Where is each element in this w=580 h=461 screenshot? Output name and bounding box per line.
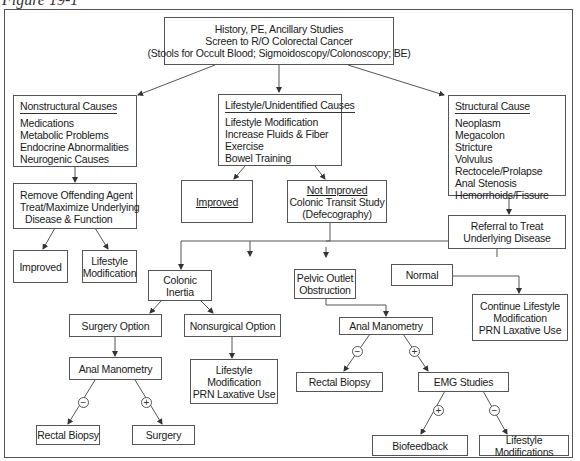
continue-line-3: PRN Laxative Use [479, 324, 562, 336]
normal-label: Normal [406, 269, 439, 281]
node-referral-treat-underlying: Referral to Treat Underlying Disease [448, 215, 566, 249]
node-root-history: History, PE, Ancillary Studies Screen to… [164, 17, 394, 65]
plus-sign-icon: + [433, 405, 444, 416]
node-continue-lifestyle: Continue Lifestyle Modification PRN Laxa… [472, 294, 568, 341]
node-improved-left: Improved [13, 250, 68, 283]
node-anal-manometry-left: Anal Manometry [69, 357, 162, 380]
node-nonsurgical-option: Nonsurgical Option [184, 314, 281, 337]
structural-item: Anal Stenosis [455, 177, 559, 189]
referral-line-2: Underlying Disease [463, 232, 550, 244]
nonstructural-item: Medications [20, 117, 130, 129]
structural-item: Volvulus [455, 153, 559, 165]
node-anal-manometry-right: Anal Manometry [339, 317, 433, 335]
lifestyle-modifications-label: Lifestyle Modifications [480, 434, 568, 458]
lifestyle-prn-line-1: Lifestyle [216, 364, 253, 376]
lifestyle-left-line-2: Modification [83, 267, 137, 279]
not-improved-line-2: (Defecography) [302, 208, 372, 220]
node-not-improved: Not Improved Colonic Transit Study (Defe… [287, 180, 387, 223]
nonsurgical-option-label: Nonsurgical Option [190, 320, 276, 332]
lifestyle-prn-line-2: Modification [207, 376, 261, 388]
node-lifestyle-modifications: Lifestyle Modifications [479, 435, 569, 456]
anal-manometry-left-label: Anal Manometry [79, 363, 153, 375]
anal-manometry-right-label: Anal Manometry [349, 320, 423, 332]
node-remove-offending-agent: Remove Offending Agent Treat/Maximize Un… [13, 183, 137, 229]
surgery-label: Surgery [146, 429, 181, 441]
minus-sign-icon: − [352, 346, 363, 357]
root-line-1: History, PE, Ancillary Studies [215, 23, 344, 35]
emg-studies-label: EMG Studies [434, 376, 494, 388]
plus-sign-icon: + [141, 397, 152, 408]
continue-line-1: Continue Lifestyle [480, 300, 560, 312]
lifestyle-item: Exercise [225, 140, 335, 152]
remove-line-2: Treat/Maximize Underlying [20, 201, 130, 213]
pelvic-line-2: Obstruction [299, 284, 351, 296]
node-surgery-option: Surgery Option [69, 314, 162, 337]
node-structural-cause: Structural Cause Neoplasm Megacolon Stri… [448, 95, 566, 196]
improved-middle-label: Improved [196, 196, 238, 208]
lifestyle-item: Increase Fluids & Fiber [225, 128, 335, 140]
node-improved-middle: Improved [181, 180, 253, 223]
minus-sign-icon: − [489, 405, 500, 416]
not-improved-header: Not Improved [307, 184, 368, 196]
not-improved-line-1: Colonic Transit Study [289, 196, 384, 208]
node-biofeedback: Biofeedback [372, 435, 468, 456]
lifestyle-left-line-1: Lifestyle [91, 255, 128, 267]
node-colonic-inertia: Colonic Inertia [148, 270, 212, 301]
rectal-biopsy-right-label: Rectal Biopsy [309, 376, 371, 388]
node-lifestyle-modification-left: Lifestyle Modification [82, 250, 137, 283]
remove-line-3: Disease & Function [20, 213, 130, 225]
biofeedback-label: Biofeedback [392, 440, 448, 452]
continue-line-2: Modification [493, 312, 547, 324]
minus-sign-icon: − [78, 397, 89, 408]
node-normal: Normal [391, 264, 453, 286]
nonstructural-item: Neurogenic Causes [20, 153, 130, 165]
structural-item: Stricture [455, 141, 559, 153]
improved-left-label: Improved [19, 261, 61, 273]
lifestyle-header: Lifestyle/Unidentified Causes [225, 99, 355, 113]
structural-header: Structural Cause [455, 100, 530, 114]
node-emg-studies: EMG Studies [418, 372, 509, 392]
structural-item: Rectocele/Prolapse [455, 165, 559, 177]
rectal-biopsy-left-label: Rectal Biopsy [37, 429, 99, 441]
node-rectal-biopsy-right: Rectal Biopsy [296, 372, 383, 392]
lifestyle-item: Bowel Training [225, 152, 335, 164]
node-surgery: Surgery [132, 425, 195, 445]
structural-item: Hemorrhoids/Fissure [455, 189, 559, 201]
node-lifestyle-unidentified-causes: Lifestyle/Unidentified Causes Lifestyle … [218, 94, 342, 166]
node-pelvic-outlet-obstruction: Pelvic Outlet Obstruction [294, 269, 356, 299]
node-nonstructural-causes: Nonstructural Causes Medications Metabol… [13, 95, 137, 167]
nonstructural-header: Nonstructural Causes [20, 100, 117, 114]
colonic-inertia-label: Colonic Inertia [149, 274, 211, 298]
remove-line-1: Remove Offending Agent [20, 189, 130, 201]
nonstructural-item: Metabolic Problems [20, 129, 130, 141]
lifestyle-prn-line-3: PRN Laxative Use [193, 388, 276, 400]
structural-item: Megacolon [455, 129, 559, 141]
pelvic-line-1: Pelvic Outlet [297, 272, 353, 284]
lifestyle-item: Lifestyle Modification [225, 116, 335, 128]
root-line-3: (Stools for Occult Blood; Sigmoidoscopy/… [147, 47, 410, 59]
plus-sign-icon: + [409, 346, 420, 357]
referral-line-1: Referral to Treat [471, 220, 543, 232]
node-rectal-biopsy-left: Rectal Biopsy [36, 425, 100, 445]
root-line-2: Screen to R/O Colorectal Cancer [205, 35, 352, 47]
surgery-option-label: Surgery Option [82, 320, 150, 332]
nonstructural-item: Endocrine Abnormalities [20, 141, 130, 153]
node-lifestyle-prn-laxative: Lifestyle Modification PRN Laxative Use [190, 359, 278, 404]
structural-item: Neoplasm [455, 117, 559, 129]
